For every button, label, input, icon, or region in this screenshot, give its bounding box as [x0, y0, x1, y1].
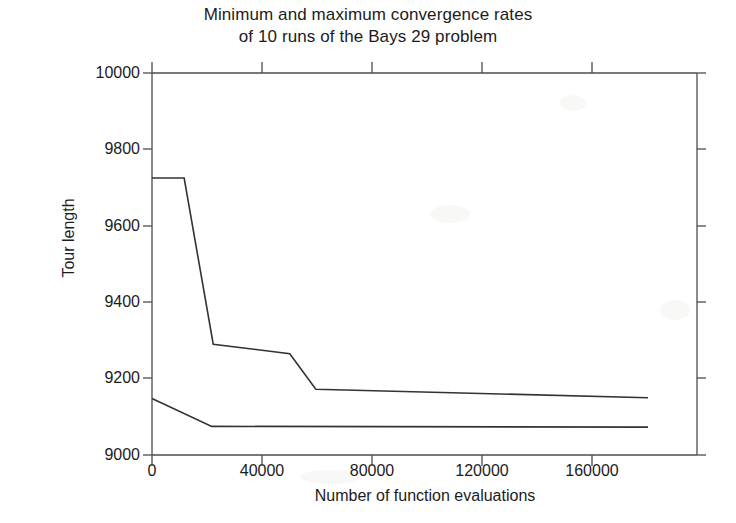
x-axis-ticks	[152, 62, 592, 466]
series-line-maximum	[152, 178, 648, 398]
series-line-minimum	[152, 398, 648, 427]
plot-area	[0, 0, 736, 523]
figure-container: Minimum and maximum convergence rates of…	[0, 0, 736, 523]
axis-spines	[152, 73, 697, 455]
